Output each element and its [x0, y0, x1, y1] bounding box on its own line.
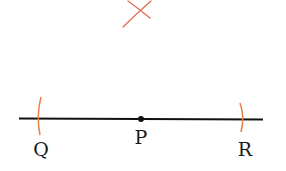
arc-at-r [240, 103, 243, 132]
point-p [138, 116, 144, 122]
label-q: Q [33, 140, 49, 159]
intersecting-arcs-top [123, 1, 151, 27]
label-p: P [135, 128, 148, 147]
label-r: R [238, 140, 252, 159]
arc-at-q [38, 97, 41, 135]
